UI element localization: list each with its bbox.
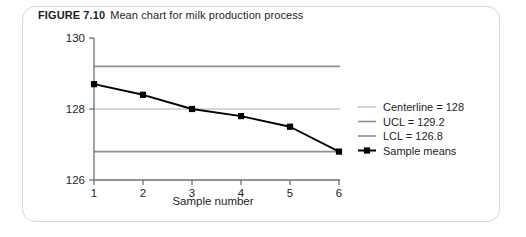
data-point-marker (91, 81, 97, 87)
legend-label: LCL = 126.8 (383, 130, 443, 142)
chart-plot-area: 126128130 123456 Sample number Centerlin… (0, 0, 526, 237)
series-line-sample-means (94, 84, 339, 151)
x-tick-label: 1 (91, 187, 97, 199)
x-tick-label: 6 (336, 187, 342, 199)
data-point-marker (140, 92, 146, 98)
x-tick-label: 5 (287, 187, 293, 199)
data-point-marker (287, 124, 293, 130)
y-axis-ticks: 126128130 (66, 32, 94, 186)
y-tick-label: 130 (66, 32, 85, 44)
data-point-marker (336, 149, 342, 155)
y-tick-label: 128 (66, 103, 85, 115)
x-tick-label: 2 (140, 187, 146, 199)
reference-lines-group (94, 66, 340, 151)
data-point-marker (189, 106, 195, 112)
y-tick-label: 126 (66, 174, 85, 186)
legend-label: Centerline = 128 (383, 101, 464, 113)
legend-marker (364, 147, 370, 153)
x-axis-title: Sample number (172, 195, 253, 207)
sample-means-series (91, 81, 342, 155)
legend-label: UCL = 129.2 (383, 116, 445, 128)
data-point-marker (238, 113, 244, 119)
chart-legend: Centerline = 128UCL = 129.2LCL = 126.8Sa… (358, 101, 464, 157)
mean-control-chart: 126128130 123456 Sample number Centerlin… (0, 0, 526, 237)
legend-label: Sample means (383, 145, 457, 157)
